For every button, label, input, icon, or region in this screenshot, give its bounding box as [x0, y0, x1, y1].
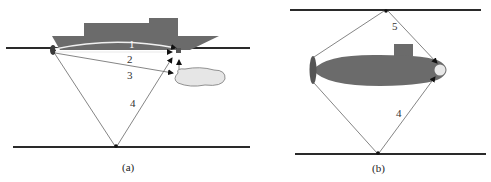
- path-label-4b: 4: [396, 107, 402, 119]
- scattering-object: [175, 68, 225, 86]
- path-label-3: 3: [127, 69, 133, 81]
- propeller-icon: [310, 56, 317, 84]
- submarine-hull: [313, 55, 447, 86]
- ship-superstructure: [84, 18, 178, 36]
- bottom-reflection-point-b: [376, 151, 380, 155]
- path-4-up-ray: [117, 58, 172, 146]
- surface-reflection-point-b: [384, 9, 388, 13]
- propagation-diagram: 1 2 3 4 (a) 5 4 (b): [0, 0, 491, 182]
- caption-a: (a): [122, 161, 135, 174]
- submarine-sail: [394, 44, 413, 56]
- path-4b-down-ray: [314, 83, 377, 153]
- path-3-object-ray: [55, 53, 173, 73]
- path-label-2: 2: [127, 53, 133, 65]
- path-label-1: 1: [129, 38, 135, 50]
- stern-transducer-icon: [50, 45, 56, 55]
- panel-b: 5 4 (b): [290, 9, 486, 175]
- path-4-down-ray: [55, 54, 115, 146]
- path-label-4: 4: [130, 97, 136, 109]
- path-label-5: 5: [392, 20, 398, 32]
- path-4b-up-ray: [379, 77, 435, 153]
- caption-b: (b): [372, 162, 385, 175]
- bottom-reflection-point-a: [114, 144, 118, 148]
- bow-sensor-icon: [435, 65, 446, 76]
- panel-a: 1 2 3 4 (a): [6, 18, 250, 174]
- path-5-up-ray: [314, 11, 384, 57]
- receiver-icon: [176, 48, 181, 53]
